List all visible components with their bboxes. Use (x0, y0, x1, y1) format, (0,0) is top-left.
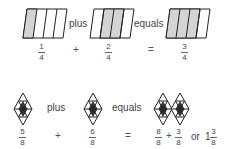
equals-sign: = (122, 130, 134, 141)
rhombus-five-eighths (13, 93, 33, 126)
equals-sign: = (145, 44, 157, 55)
fraction-5-8: 58 (19, 128, 26, 147)
denominator: 8 (90, 139, 94, 147)
plus-sign: + (52, 130, 64, 141)
word-equals: equals (112, 102, 141, 113)
fraction-3-8: 38 (175, 128, 182, 147)
fraction-2-4: 24 (105, 43, 112, 62)
numerator: 8 (156, 128, 160, 136)
numerator: 3 (211, 128, 215, 136)
parallelogram-one-fourth (22, 9, 68, 39)
plus-sign: + (70, 44, 82, 55)
numerator: 3 (182, 43, 186, 51)
numerator: 1 (39, 43, 43, 51)
parallelogram-two-fourths (89, 9, 135, 39)
mixed-fraction-3-8: 38 (210, 128, 217, 147)
denominator: 8 (156, 139, 160, 147)
denominator: 8 (211, 139, 215, 147)
parallelogram-three-fourths (165, 9, 211, 39)
fraction-3-4: 34 (181, 43, 188, 62)
word-plus: plus (47, 102, 65, 113)
numerator: 2 (106, 43, 110, 51)
rhombus-six-eighths (83, 93, 103, 126)
fraction-8-8: 88 (155, 128, 162, 147)
fraction-6-8: 68 (89, 128, 96, 147)
word-equals: equals (134, 18, 163, 29)
word-or: or (191, 131, 200, 142)
fraction-1-4: 14 (38, 43, 45, 62)
rhombus-pair-fourteen-eighths (153, 93, 191, 126)
denominator: 4 (39, 54, 43, 62)
plus-sign: + (163, 130, 175, 141)
denominator: 4 (106, 54, 110, 62)
denominator: 8 (20, 139, 24, 147)
word-plus: plus (69, 18, 87, 29)
denominator: 8 (176, 139, 180, 147)
denominator: 4 (182, 54, 186, 62)
numerator: 3 (176, 128, 180, 136)
numerator: 5 (20, 128, 24, 136)
numerator: 6 (90, 128, 94, 136)
